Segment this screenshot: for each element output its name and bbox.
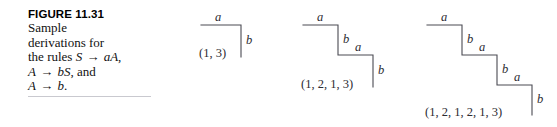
nonterminal-symbol: A	[28, 64, 36, 79]
edge-label-a: a	[479, 40, 485, 54]
rule-arrow-icon: →	[36, 78, 58, 93]
edge-label-b: b	[467, 32, 473, 46]
caption-text: the rules	[28, 49, 76, 64]
caption-line-2: derivations for	[28, 36, 156, 51]
caption-punctuation: ,	[118, 49, 121, 64]
derivation-diagram-3: a b a b a b (1, 2, 1, 2, 1, 3)	[424, 12, 554, 127]
derivation-diagram-1: a b (1, 3)	[196, 12, 266, 72]
edge-label-a: a	[441, 10, 447, 24]
edge-label-b: b	[378, 63, 384, 77]
coordinate-label: (1, 2, 1, 3)	[301, 77, 353, 91]
caption-punctuation: .	[64, 78, 67, 93]
caption-punctuation: , and	[70, 64, 95, 79]
caption-line-5: A → b.	[28, 79, 156, 94]
coordinate-label: (1, 2, 1, 2, 1, 3)	[425, 105, 502, 119]
edge-label-a: a	[215, 10, 221, 24]
nonterminal-symbol: A	[28, 78, 36, 93]
caption-line-1: Sample	[28, 21, 156, 36]
caption-divider	[28, 96, 151, 97]
rule-body: aA	[104, 49, 118, 64]
caption-text: derivations for	[28, 35, 104, 50]
edge-label-a: a	[355, 40, 361, 54]
caption-line-4: A → bS, and	[28, 65, 156, 80]
edge-label-a: a	[514, 70, 520, 84]
derivation-diagram-2: a b a b (1, 2, 1, 3)	[300, 12, 400, 104]
edge-label-a: a	[317, 10, 323, 24]
figure-number-label: FIGURE 11.31	[28, 7, 156, 21]
edge-label-b: b	[343, 32, 349, 46]
figure-caption: FIGURE 11.31 Sample derivations for the …	[28, 7, 156, 94]
caption-text: Sample	[28, 20, 67, 35]
rule-body: bS	[57, 64, 70, 79]
caption-line-3: the rules S → aA,	[28, 50, 156, 65]
edge-label-b: b	[246, 33, 252, 47]
edge-label-b: b	[537, 92, 543, 106]
edge-label-b: b	[502, 62, 508, 76]
figure-panel: FIGURE 11.31 Sample derivations for the …	[0, 0, 557, 127]
coordinate-label: (1, 3)	[199, 46, 226, 60]
rule-arrow-icon: →	[36, 64, 58, 79]
rule-arrow-icon: →	[82, 49, 104, 64]
